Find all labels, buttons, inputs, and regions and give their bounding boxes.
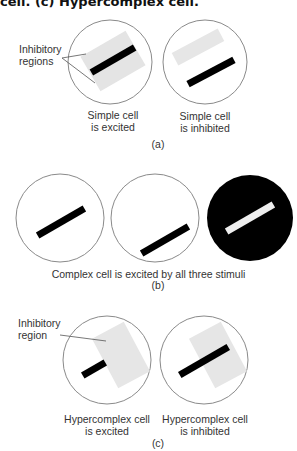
panel-a-tag: (a)	[148, 138, 168, 150]
caption-line: Simple cell	[170, 110, 240, 122]
caption-line: is inhibited	[158, 425, 252, 437]
caption-line: Hypercomplex cell	[60, 413, 154, 425]
complex-cell-field-2	[111, 174, 199, 262]
callout-line-1: Inhibitory	[18, 317, 61, 329]
callout-line-2: regions	[19, 55, 62, 67]
caption-line: Hypercomplex cell	[158, 413, 252, 425]
receptive-field-diagram	[0, 0, 297, 451]
caption-line: is inhibited	[170, 122, 240, 134]
hypercomplex-cell-excited-caption: Hypercomplex cell is excited	[60, 413, 154, 437]
complex-cell-field-1	[16, 174, 104, 262]
inhibitory-regions-label: Inhibitory regions	[19, 43, 62, 67]
callout-line-1: Inhibitory	[19, 43, 62, 55]
panel-c-tag: (c)	[148, 437, 168, 449]
complex-cell-field-3-dark	[207, 175, 293, 261]
hypercomplex-cell-inhibited-caption: Hypercomplex cell is inhibited	[158, 413, 252, 437]
caption-line: is excited	[60, 425, 154, 437]
simple-cell-inhibited-field	[163, 20, 247, 104]
callout-line-2: region	[18, 329, 61, 341]
hypercomplex-cell-excited-field	[63, 316, 151, 404]
caption-line: Simple cell	[78, 109, 148, 121]
panel-b-tag: (b)	[148, 279, 168, 291]
simple-cell-excited-caption: Simple cell is excited	[78, 109, 148, 133]
caption-line: is excited	[78, 121, 148, 133]
simple-cell-inhibited-caption: Simple cell is inhibited	[170, 110, 240, 134]
hypercomplex-cell-inhibited-field	[160, 316, 248, 404]
simple-cell-excited-field	[68, 20, 152, 104]
inhibitory-region-label: Inhibitory region	[18, 317, 61, 341]
